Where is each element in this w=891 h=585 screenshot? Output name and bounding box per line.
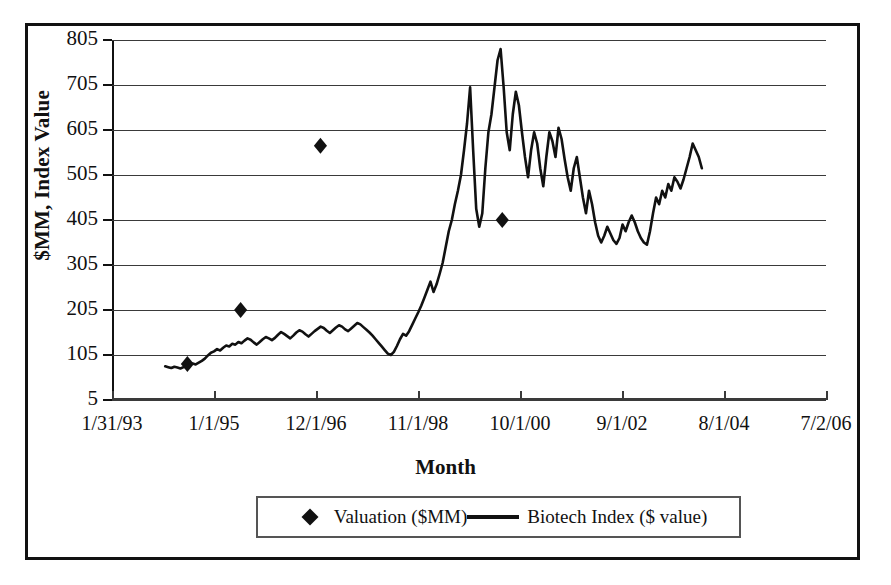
legend-item-valuation: Valuation ($MM) <box>290 506 468 528</box>
chart-figure: $MM, Index Value 51052053054055056057058… <box>0 0 891 585</box>
legend-label-biotech-index: Biotech Index ($ value) <box>527 506 707 528</box>
x-axis-title: Month <box>0 455 891 480</box>
valuation-data-point <box>314 138 327 154</box>
valuation-data-point <box>234 302 247 318</box>
y-tick-mark <box>103 399 112 401</box>
y-tick-mark <box>103 309 112 311</box>
x-tick-label: 9/1/02 <box>596 412 647 435</box>
y-tick-label: 405 <box>0 206 98 231</box>
y-tick-mark <box>103 39 112 41</box>
y-tick-label: 5 <box>0 386 98 411</box>
diamond-marker-icon <box>301 509 318 526</box>
y-tick-mark <box>103 219 112 221</box>
x-tick-label: 8/1/04 <box>698 412 749 435</box>
chart-legend: Valuation ($MM) Biotech Index ($ value) <box>256 496 741 538</box>
x-tick-label: 1/1/95 <box>188 412 239 435</box>
y-tick-label: 205 <box>0 296 98 321</box>
x-tick-label: 12/1/96 <box>285 412 346 435</box>
y-tick-mark <box>103 354 112 356</box>
valuation-data-point <box>496 212 509 228</box>
y-tick-mark <box>103 84 112 86</box>
gridline <box>112 400 826 401</box>
y-tick-label: 605 <box>0 116 98 141</box>
y-tick-label: 505 <box>0 161 98 186</box>
y-tick-label: 105 <box>0 341 98 366</box>
series-layer <box>112 40 826 400</box>
y-tick-label: 705 <box>0 71 98 96</box>
legend-item-biotech-index: Biotech Index ($ value) <box>527 506 707 528</box>
x-tick-mark <box>826 391 828 400</box>
legend-label-valuation: Valuation ($MM) <box>334 506 468 528</box>
y-tick-label: 805 <box>0 26 98 51</box>
y-tick-mark <box>103 264 112 266</box>
y-tick-label: 305 <box>0 251 98 276</box>
series-line-biotech-index <box>165 49 702 369</box>
x-tick-label: 7/2/06 <box>800 412 851 435</box>
x-tick-label: 10/1/00 <box>489 412 550 435</box>
x-tick-label: 11/1/98 <box>388 412 448 435</box>
plot-area <box>112 40 826 400</box>
line-marker-icon <box>467 515 519 519</box>
y-tick-mark <box>103 174 112 176</box>
x-tick-label: 1/31/93 <box>81 412 142 435</box>
y-tick-mark <box>103 129 112 131</box>
